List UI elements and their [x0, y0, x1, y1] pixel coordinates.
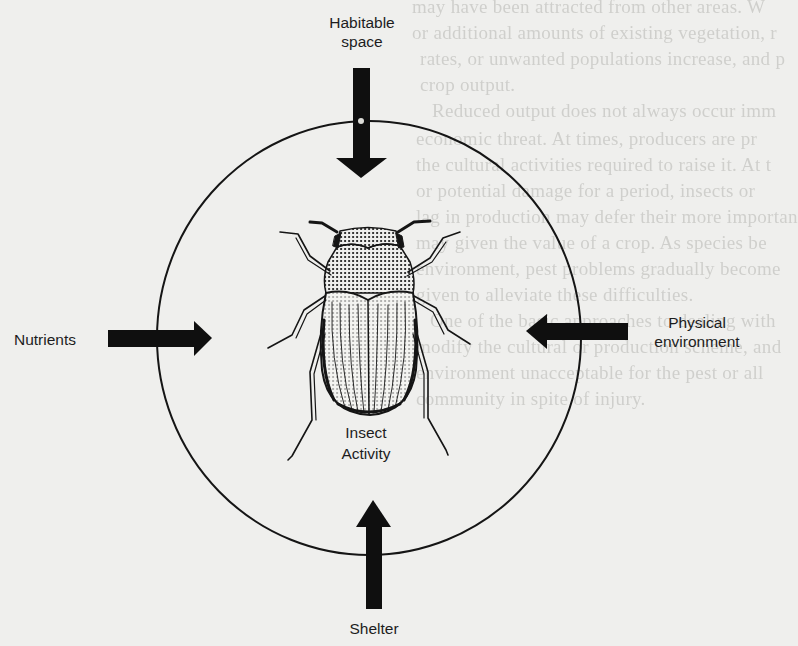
label-insect-activity: Insect Activity — [320, 422, 412, 464]
label-nutrients: Nutrients — [14, 330, 100, 349]
label-line: Shelter — [324, 619, 424, 638]
label-line: Physical — [632, 313, 762, 332]
label-shelter: Shelter — [324, 619, 424, 638]
label-line: Insect — [320, 422, 412, 443]
label-line: environment — [632, 332, 762, 351]
label-line: space — [302, 32, 422, 51]
label-line: Nutrients — [14, 330, 100, 349]
arrow-left-icon — [526, 314, 628, 349]
label-line: Habitable — [302, 13, 422, 32]
label-line: Activity — [320, 443, 412, 464]
arrow-right-icon — [108, 321, 212, 356]
label-physical-environment: Physical environment — [632, 313, 762, 351]
label-habitable-space: Habitable space — [302, 13, 422, 51]
